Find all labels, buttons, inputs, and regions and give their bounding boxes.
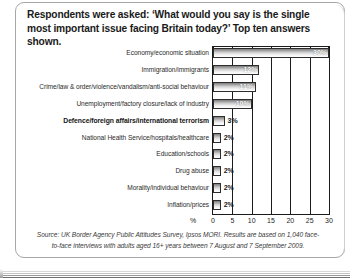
bar-value-label: 2% [224, 132, 234, 144]
category-label: Morality/individual behaviour [26, 181, 209, 195]
bar [213, 183, 221, 193]
bar-value-label: 2% [224, 182, 234, 194]
page-edge-3 [2, 275, 350, 276]
bar [213, 133, 221, 143]
bar [213, 200, 221, 210]
bar-value-label: 11% [240, 81, 254, 93]
category-label: Education/schools [26, 147, 209, 161]
category-label: Drug abuse [26, 164, 209, 178]
chart-row: Unemployment/factory closure/lack of ind… [22, 97, 340, 111]
source-note: Source: UK Border Agency Public Attitude… [36, 230, 320, 251]
bar-value-label: 2% [224, 148, 234, 160]
page-edge-left [0, 269, 3, 278]
bar-value-label: 10% [236, 98, 250, 110]
chart-row: Education/schools2% [22, 147, 340, 161]
chart-row: Crime/law & order/violence/vandalism/ant… [22, 80, 340, 94]
bar-chart: Economy/economic situation30%Immigration… [22, 44, 340, 216]
bar [213, 116, 225, 126]
chart-row: Drug abuse2% [22, 164, 340, 178]
page-edge-1 [2, 271, 350, 272]
x-tick-label: 5 [223, 216, 241, 226]
bar-value-label: 3% [228, 115, 238, 127]
x-tick-label: 20 [281, 216, 299, 226]
bar [213, 166, 221, 176]
chart-row: Immigration/immigrants12% [22, 63, 340, 77]
category-label: National Health Service/hospitals/health… [26, 131, 209, 145]
x-axis: % 051015202530 [22, 216, 340, 228]
x-axis-unit-label: % [190, 216, 196, 226]
category-label: Inflation/prices [26, 198, 209, 212]
chart-row: Morality/individual behaviour2% [22, 181, 340, 195]
x-tick-label: 0 [204, 216, 222, 226]
chart-row: Defence/foreign affairs/international te… [22, 114, 340, 128]
document-page: Respondents were asked: ‘What would you … [0, 0, 352, 278]
bar-value-label: 30% [313, 47, 327, 59]
bar-value-label: 2% [224, 165, 234, 177]
chart-title: Respondents were asked: ‘What would you … [27, 8, 327, 49]
bar [213, 48, 329, 58]
page-edge-2 [2, 273, 350, 274]
category-label: Crime/law & order/violence/vandalism/ant… [26, 80, 209, 94]
category-label: Economy/economic situation [26, 46, 209, 60]
bar [213, 149, 221, 159]
chart-row: Inflation/prices2% [22, 198, 340, 212]
category-label: Unemployment/factory closure/lack of ind… [26, 97, 209, 111]
x-tick-label: 25 [301, 216, 319, 226]
bar-value-label: 12% [243, 64, 257, 76]
category-label: Defence/foreign affairs/international te… [26, 114, 209, 128]
category-label: Immigration/immigrants [26, 63, 209, 77]
chart-row: Economy/economic situation30% [22, 46, 340, 60]
bar-value-label: 2% [224, 199, 234, 211]
x-tick-label: 30 [320, 216, 338, 226]
x-tick-label: 15 [262, 216, 280, 226]
x-tick-label: 10 [243, 216, 261, 226]
chart-row: National Health Service/hospitals/health… [22, 131, 340, 145]
